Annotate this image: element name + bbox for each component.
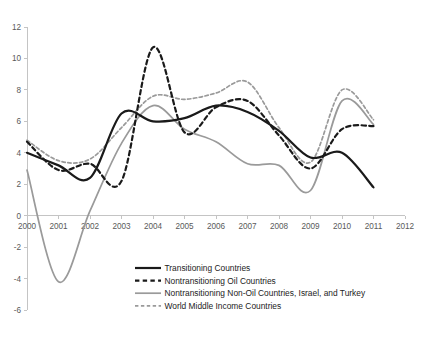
x-axis-tick-label: 2004 <box>144 222 163 231</box>
legend-label-2: Nontransitioning Oil Countries <box>165 276 276 286</box>
y-axis-tick-label: 12 <box>12 23 22 32</box>
chart-legend: Transitioning CountriesNontransitioning … <box>135 263 366 311</box>
x-axis-tick-label: 2005 <box>175 222 194 231</box>
x-axis-tick-label: 2003 <box>112 222 131 231</box>
x-axis: 2000200120022003200420052006200720082009… <box>18 216 415 232</box>
x-axis-tick-label: 2010 <box>333 222 352 231</box>
x-axis-tick-label: 2000 <box>18 222 37 231</box>
y-axis-tick-label: -2 <box>14 243 22 252</box>
x-axis-tick-label: 2009 <box>301 222 320 231</box>
y-axis-tick-label: 10 <box>12 54 22 63</box>
chart-container: -6-4-2024681012 200020012002200320042005… <box>0 0 425 338</box>
legend-label-3: Nontransitioning Non-Oil Countries, Isra… <box>165 288 366 298</box>
legend-label-1: Transitioning Countries <box>165 263 251 273</box>
x-axis-tick-label: 2012 <box>396 222 415 231</box>
y-axis: -6-4-2024681012 <box>12 23 27 315</box>
y-axis-tick-label: 2 <box>16 180 21 189</box>
x-axis-tick-label: 2001 <box>49 222 68 231</box>
y-axis-tick-label: 6 <box>16 117 21 126</box>
series-line-4 <box>27 81 374 163</box>
y-axis-tick-label: -4 <box>14 275 22 284</box>
series-line-1 <box>27 105 374 187</box>
legend-label-4: World Middle Income Countries <box>165 301 282 311</box>
y-axis-tick-label: 0 <box>16 212 21 221</box>
y-axis-tick-label: 8 <box>16 86 21 95</box>
y-axis-tick-label: -6 <box>14 306 22 315</box>
line-chart: -6-4-2024681012 200020012002200320042005… <box>0 0 425 338</box>
x-axis-tick-label: 2011 <box>365 222 383 231</box>
x-axis-tick-label: 2006 <box>207 222 226 231</box>
x-axis-tick-label: 2008 <box>270 222 289 231</box>
y-axis-tick-label: 4 <box>16 149 21 158</box>
x-axis-tick-label: 2007 <box>238 222 257 231</box>
plot-series-group <box>27 47 374 282</box>
